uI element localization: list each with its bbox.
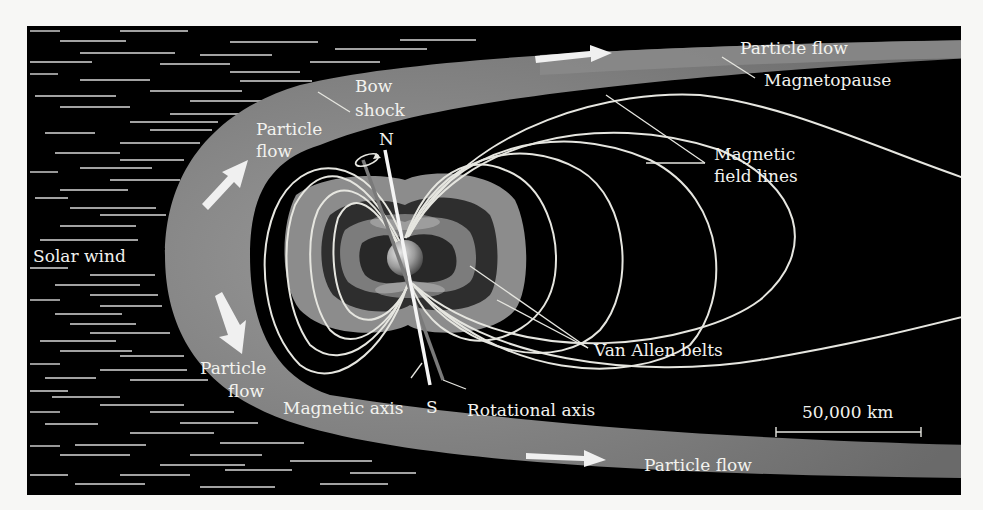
- particle-flow-lower-left-label-line2: flow: [228, 381, 265, 401]
- magnetopause-label: Magnetopause: [764, 70, 891, 90]
- magnetic-axis-label: Magnetic axis: [283, 398, 404, 418]
- bow-shock-label-line1: Bow: [355, 76, 393, 96]
- particle-flow-upper-left-label-line2: flow: [256, 141, 293, 161]
- particle-flow-bottom-label: Particle flow: [644, 455, 752, 475]
- particle-flow-top-label: Particle flow: [740, 38, 848, 58]
- bow-shock-label-line2: shock: [355, 100, 405, 120]
- magnetic-field-lines-label-line2: field lines: [714, 166, 798, 186]
- solar-wind-label: Solar wind: [33, 246, 126, 266]
- van-allen-belts-label: Van Allen belts: [593, 340, 723, 360]
- magnetic-field-lines-label-line1: Magnetic: [714, 144, 795, 164]
- particle-flow-lower-left-label-line1: Particle: [200, 358, 266, 378]
- particle-flow-upper-left-label-line1: Particle: [256, 119, 322, 139]
- scale-bar-label: 50,000 km: [802, 402, 893, 422]
- north-pole-label: N: [379, 129, 394, 149]
- south-pole-label: S: [426, 397, 438, 417]
- magnetosphere-diagram: Solar wind Bow shock Particle flow Parti…: [0, 0, 983, 510]
- rotational-axis-label: Rotational axis: [467, 400, 595, 420]
